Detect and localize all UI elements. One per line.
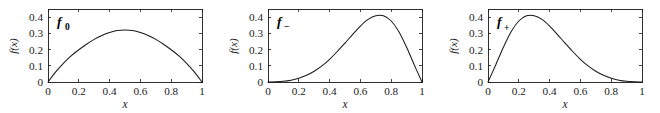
y-axis-ticks-f0: [48, 17, 202, 82]
x-axis-ticklabels-f0: 00.20.40.60.81: [45, 85, 205, 97]
plot-canvas-fplus: 00.20.40.60.81 00.10.20.30.4 x f(x) f +: [440, 0, 660, 113]
svg-text:0.4: 0.4: [103, 85, 117, 97]
svg-text:0.4: 0.4: [29, 11, 43, 23]
svg-text:0.4: 0.4: [469, 11, 483, 23]
panel-label-fminus: f: [277, 14, 283, 29]
x-axis-ticklabels-fplus: 00.20.40.60.81: [485, 85, 645, 97]
x-axis-title-f0: x: [121, 98, 128, 110]
y-axis-title-fminus: f(x): [227, 38, 240, 54]
x-axis-title-fminus: x: [341, 98, 348, 110]
svg-text:0.1: 0.1: [249, 60, 263, 72]
svg-text:0.2: 0.2: [292, 85, 306, 97]
plot-frame-fminus: [268, 9, 422, 82]
svg-text:0.8: 0.8: [384, 85, 398, 97]
plot-frame-f0: [48, 9, 202, 82]
panel-label-f0: f: [57, 14, 63, 29]
svg-text:0.4: 0.4: [543, 85, 557, 97]
plot-panel-fminus: 00.20.40.60.81 00.10.20.30.4 x f(x) f −: [220, 0, 440, 113]
y-axis-ticks-fplus: [488, 17, 642, 82]
svg-text:0.8: 0.8: [164, 85, 178, 97]
data-curve-fminus: [268, 15, 422, 82]
svg-text:0.6: 0.6: [573, 85, 587, 97]
svg-text:1: 1: [419, 85, 425, 97]
svg-text:0.1: 0.1: [469, 60, 483, 72]
plot-panel-f0: 00.20.40.60.81 00.10.20.30.4 x f(x) f 0: [0, 0, 220, 113]
svg-text:0.3: 0.3: [249, 27, 263, 39]
svg-text:0.2: 0.2: [469, 44, 483, 56]
y-axis-title-f0: f(x): [7, 38, 20, 54]
y-axis-ticklabels-fplus: 00.10.20.30.4: [469, 11, 483, 88]
data-curve-f0: [48, 30, 202, 82]
svg-text:0: 0: [45, 85, 51, 97]
svg-text:0.8: 0.8: [604, 85, 618, 97]
panel-label-subscript-fminus: −: [284, 22, 289, 32]
x-axis-ticklabels-fminus: 00.20.40.60.81: [265, 85, 425, 97]
svg-text:0.3: 0.3: [469, 27, 483, 39]
svg-text:0.2: 0.2: [512, 85, 526, 97]
svg-text:0: 0: [477, 76, 483, 88]
plot-canvas-fminus: 00.20.40.60.81 00.10.20.30.4 x f(x) f −: [220, 0, 440, 113]
svg-text:0.4: 0.4: [323, 85, 337, 97]
svg-text:0.1: 0.1: [29, 60, 43, 72]
y-axis-ticklabels-fminus: 00.10.20.30.4: [249, 11, 263, 88]
svg-text:0: 0: [37, 76, 43, 88]
svg-text:0: 0: [485, 85, 491, 97]
svg-text:0: 0: [257, 76, 263, 88]
data-curve-fplus: [488, 15, 642, 82]
panel-label-subscript-f0: 0: [65, 22, 70, 32]
svg-text:0.4: 0.4: [249, 11, 263, 23]
svg-text:1: 1: [199, 85, 205, 97]
svg-text:0.6: 0.6: [353, 85, 367, 97]
svg-text:0.3: 0.3: [29, 27, 43, 39]
y-axis-title-fplus: f(x): [447, 38, 460, 54]
x-axis-ticks-fminus: [268, 9, 422, 82]
svg-text:1: 1: [639, 85, 645, 97]
x-axis-ticks-fplus: [488, 9, 642, 82]
x-axis-title-fplus: x: [561, 98, 568, 110]
svg-text:0.2: 0.2: [29, 44, 43, 56]
y-axis-ticks-fminus: [268, 17, 422, 82]
svg-text:0.6: 0.6: [133, 85, 147, 97]
plot-panel-fplus: 00.20.40.60.81 00.10.20.30.4 x f(x) f +: [440, 0, 660, 113]
plot-frame-fplus: [488, 9, 642, 82]
svg-text:0.2: 0.2: [249, 44, 263, 56]
svg-text:0.2: 0.2: [72, 85, 86, 97]
panel-label-fplus: f: [497, 14, 503, 29]
x-axis-ticks-f0: [48, 9, 202, 82]
y-axis-ticklabels-f0: 00.10.20.30.4: [29, 11, 43, 88]
svg-text:0: 0: [265, 85, 271, 97]
plot-canvas-f0: 00.20.40.60.81 00.10.20.30.4 x f(x) f 0: [0, 0, 220, 113]
panel-label-subscript-fplus: +: [504, 23, 509, 33]
figure-three-panel-plot: 00.20.40.60.81 00.10.20.30.4 x f(x) f 0 …: [0, 0, 660, 113]
